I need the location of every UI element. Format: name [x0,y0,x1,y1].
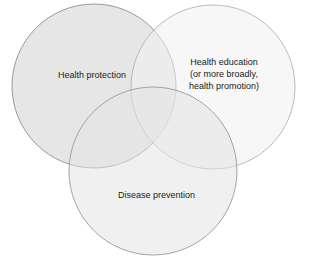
label-health-education-line-3: health promotion) [189,80,259,92]
label-disease-prevention: Disease prevention [118,189,195,201]
label-health-education-line-1: Health education [189,56,259,68]
circle-disease-prevention [69,87,237,255]
label-health-education-line-2: (or more broadly, [189,68,259,80]
venn-diagram [0,0,313,270]
label-health-education: Health education (or more broadly, healt… [189,56,259,92]
label-health-protection: Health protection [58,69,126,81]
